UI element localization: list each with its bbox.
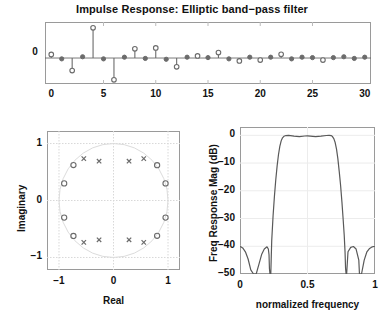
pz-axis-label-real: Real [47, 295, 180, 306]
stem-xtick-15: 15 [193, 88, 223, 99]
pz-xtick-2: 1 [153, 275, 183, 286]
fr-ytick-3: −30 [211, 212, 235, 223]
fr-axis-label-frequency: normalized frequency [240, 299, 375, 310]
stem-ytick-0: 0 [28, 46, 42, 57]
fr-ytick-4: −40 [211, 239, 235, 250]
pole-zero-plot [47, 131, 180, 270]
pz-ytick-1: 0 [25, 194, 42, 205]
fr-xtick-0: 0 [225, 279, 255, 290]
frequency-response-plot [240, 127, 375, 274]
pz-xtick-0: −1 [44, 275, 74, 286]
impulse-response-plot [45, 22, 371, 84]
stem-xtick-5: 5 [89, 88, 119, 99]
stem-xtick-0: 0 [36, 88, 66, 99]
stem-xtick-25: 25 [297, 88, 327, 99]
fr-series [240, 127, 375, 274]
pz-series [47, 131, 180, 270]
fr-ytick-5: −50 [211, 267, 235, 278]
fr-ytick-0: 0 [211, 128, 235, 139]
fr-xtick-1: 0.5 [293, 279, 323, 290]
fr-ytick-2: −20 [211, 184, 235, 195]
matlab-figure-window: Impulse Response: Elliptic band−pass fil… [0, 0, 384, 322]
fr-xtick-2: 1 [360, 279, 384, 290]
pz-ytick-2: −1 [25, 250, 42, 261]
fr-ytick-1: −10 [211, 156, 235, 167]
figure-title: Impulse Response: Elliptic band−pass fil… [0, 3, 384, 15]
stem-xtick-30: 30 [350, 88, 380, 99]
stem-series [45, 22, 371, 84]
pz-xtick-1: 0 [99, 275, 129, 286]
stem-xtick-10: 10 [141, 88, 171, 99]
pz-axis-label-imaginary: Imaginary [16, 185, 27, 232]
pz-ytick-0: 1 [25, 137, 42, 148]
stem-xtick-20: 20 [245, 88, 275, 99]
